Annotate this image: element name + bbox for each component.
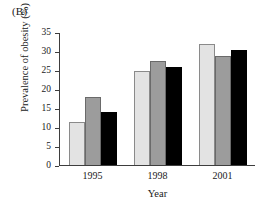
y-tick: 35 [55,33,59,34]
bar [215,56,231,165]
y-tick: 0 [55,166,59,167]
bar-group [60,33,125,165]
y-tick-label: 15 [42,102,52,115]
y-axis-title: Prevalence of obesity (%) [19,0,30,128]
y-tick: 25 [55,71,59,72]
x-tick-label: 1998 [125,170,190,181]
bar [199,44,215,165]
y-tick: 20 [55,90,59,91]
y-tick-label: 5 [46,140,51,153]
y-tick-label: 25 [42,64,52,77]
bar [101,112,117,165]
x-axis-title: Year [60,188,255,199]
figure-panel-b: (B) Prevalence of obesity (%) 0510152025… [0,0,280,211]
x-tick-label: 1995 [60,170,125,181]
y-tick: 30 [55,52,59,53]
x-axis-tick-labels: 199519982001 [60,170,255,181]
y-tick: 15 [55,109,59,110]
y-tick-label: 35 [42,26,52,39]
y-tick-label: 20 [42,83,52,96]
bar [166,67,182,165]
bar-group [125,33,190,165]
x-tick-label: 2001 [190,170,255,181]
y-tick-label: 30 [42,45,52,58]
y-tick-label: 10 [42,121,52,134]
bar [85,97,101,165]
bar [69,122,85,165]
y-tick: 5 [55,147,59,148]
bar [150,61,166,165]
bar [134,71,150,165]
y-tick: 10 [55,128,59,129]
y-tick-label: 0 [46,159,51,172]
bar [231,50,247,165]
plot-area: 05101520253035 [59,33,255,166]
bar-group [190,33,255,165]
x-axis-line [59,165,255,166]
bar-groups [60,33,255,165]
